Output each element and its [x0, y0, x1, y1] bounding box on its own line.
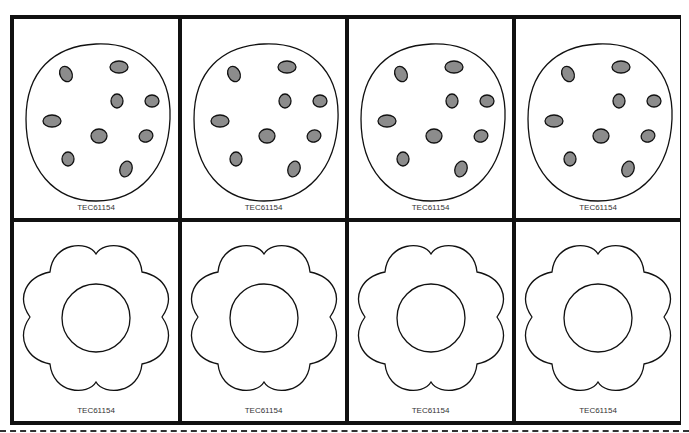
cut-line	[0, 430, 689, 432]
flower-card: TEC61154	[349, 222, 512, 421]
flower-icon	[14, 222, 178, 421]
product-code: TEC61154	[182, 203, 345, 212]
product-code: TEC61154	[14, 203, 178, 212]
cookie-icon	[14, 19, 178, 218]
cookie-icon	[182, 19, 345, 218]
product-code: TEC61154	[349, 203, 512, 212]
product-code: TEC61154	[516, 203, 680, 212]
flower-icon	[182, 222, 345, 421]
product-code: TEC61154	[516, 406, 680, 415]
cookie-icon	[516, 19, 680, 218]
product-code: TEC61154	[14, 406, 178, 415]
flower-card: TEC61154	[516, 222, 680, 421]
cookie-card: TEC61154	[182, 19, 345, 218]
flower-card: TEC61154	[182, 222, 345, 421]
product-code: TEC61154	[349, 406, 512, 415]
flower-icon	[349, 222, 512, 421]
product-code: TEC61154	[182, 406, 345, 415]
flower-icon	[516, 222, 680, 421]
flower-card: TEC61154	[14, 222, 178, 421]
cookie-card: TEC61154	[349, 19, 512, 218]
cookie-card: TEC61154	[516, 19, 680, 218]
card-sheet: TEC61154 TEC61154	[10, 15, 681, 425]
cookie-icon	[349, 19, 512, 218]
cookie-card: TEC61154	[14, 19, 178, 218]
